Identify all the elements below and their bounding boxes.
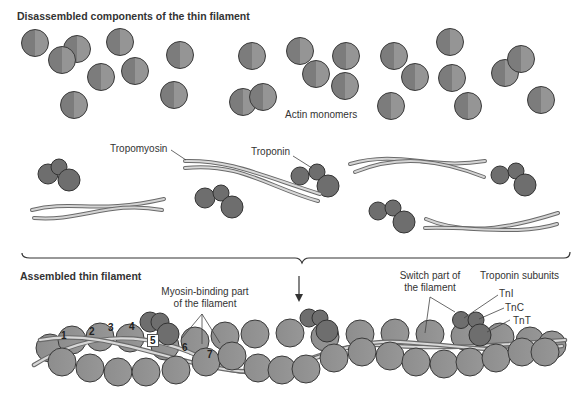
- actin-number-3: 3: [108, 322, 114, 333]
- actin-monomers-group: [22, 29, 555, 120]
- actin-number-5: 5: [147, 334, 159, 347]
- assembly-brace: [22, 252, 570, 263]
- myosin-binding-label-line2: of the filament: [155, 298, 255, 310]
- actin-number-7: 7: [207, 349, 213, 360]
- tnc-label: TnC: [505, 302, 524, 313]
- down-arrow-icon: [295, 276, 303, 302]
- disassembled-title: Disassembled components of the thin fila…: [17, 10, 250, 22]
- myosin-binding-label: Myosin-binding part of the filament: [155, 286, 255, 310]
- thin-filament-illustration: [0, 0, 582, 408]
- actin-number-4: 4: [129, 321, 135, 332]
- tropomyosin-label: Tropomyosin: [110, 143, 167, 154]
- tni-label: TnI: [499, 288, 513, 299]
- actin-monomers-label: Actin monomers: [285, 109, 357, 120]
- myosin-binding-label-line1: Myosin-binding part: [155, 286, 255, 298]
- tnt-label: TnT: [513, 315, 531, 326]
- tnt-subunit: [469, 324, 491, 346]
- switch-part-label-line2: the filament: [390, 282, 470, 294]
- tni-subunit: [453, 312, 470, 329]
- switch-part-label-line1: Switch part of: [390, 270, 470, 282]
- troponin-subunits-label: Troponin subunits: [480, 270, 559, 281]
- actin-number-1: 1: [61, 330, 67, 341]
- assembled-title: Assembled thin filament: [20, 270, 141, 282]
- troponin-label: Troponin: [251, 146, 290, 157]
- switch-part-label: Switch part of the filament: [390, 270, 470, 294]
- actin-number-2: 2: [89, 326, 95, 337]
- actin-number-6: 6: [182, 342, 188, 353]
